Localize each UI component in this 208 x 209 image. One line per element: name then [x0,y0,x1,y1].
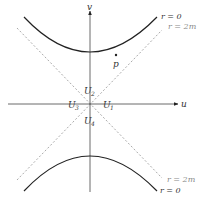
label-r0-top: r = 0 [161,12,182,21]
point-p-label: p [113,59,119,69]
label-r0-bottom: r = 0 [160,186,181,195]
region-label-u4: U 4 [84,116,95,127]
kruskal-diagram: p v u U 2 U 3 U 1 U 4 r = 0 r = 2m r = 2… [0,0,208,209]
label-r2m-top: r = 2m [168,22,197,31]
label-r2m-bottom: r = 2m [167,175,196,184]
svg-text:1: 1 [110,104,114,111]
v-axis-label: v [87,2,92,12]
svg-text:3: 3 [75,104,79,111]
region-label-u1: U 1 [103,100,114,111]
region-label-u2: U 2 [84,86,95,97]
u-axis-label: u [181,99,187,109]
point-p-dot [115,54,117,56]
region-label-u3: U 3 [68,100,79,111]
svg-text:4: 4 [90,120,95,127]
svg-text:2: 2 [90,90,95,97]
singularity-curve-bottom [24,156,157,191]
singularity-curve-top [24,17,157,52]
